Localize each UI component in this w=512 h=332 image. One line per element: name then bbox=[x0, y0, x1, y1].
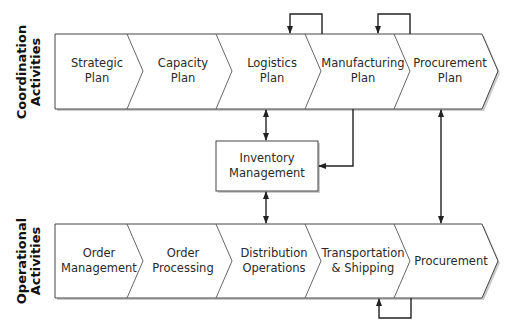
segment-label: Procurement bbox=[414, 254, 488, 268]
segment-label: Plan bbox=[351, 71, 375, 85]
segment-label: Plan bbox=[85, 71, 109, 85]
segment-procurement[interactable]: Procurement bbox=[414, 254, 488, 268]
coordination-row: Strategic Plan Capacity Plan Logistics P… bbox=[55, 34, 500, 111]
segment-label: Plan bbox=[171, 71, 195, 85]
segment-label: Distribution bbox=[240, 246, 307, 260]
inventory-label-line1: Inventory bbox=[240, 151, 295, 165]
directed-arrow bbox=[319, 109, 353, 166]
segment-label: Transportation bbox=[320, 246, 404, 260]
segment-label: Order bbox=[83, 246, 116, 260]
operational-row: Order Management Order Processing Distri… bbox=[55, 224, 500, 300]
segment-label: Processing bbox=[152, 261, 213, 275]
segment-label: Strategic bbox=[71, 56, 123, 70]
inventory-label-line2: Management bbox=[229, 166, 305, 180]
segment-transportation-shipping[interactable]: Transportation & Shipping bbox=[320, 246, 404, 275]
coordination-row-label: Coordination Activities bbox=[14, 25, 43, 119]
feedback-loop-arrow bbox=[290, 14, 322, 34]
coordination-label-line2: Activities bbox=[28, 37, 43, 106]
operational-row-label: Operational Activities bbox=[14, 218, 43, 304]
segment-label: Procurement bbox=[413, 56, 487, 70]
segment-label: & Shipping bbox=[332, 261, 395, 275]
feedback-loop-arrow bbox=[378, 14, 410, 34]
supply-chain-diagram: Coordination Activities Operational Acti… bbox=[0, 0, 512, 332]
inventory-management-box[interactable]: Inventory Management bbox=[216, 141, 320, 193]
coordination-label-line1: Coordination bbox=[14, 25, 29, 119]
segment-label: Plan bbox=[260, 71, 284, 85]
segment-distribution-operations[interactable]: Distribution Operations bbox=[240, 246, 307, 275]
feedback-loop-arrow bbox=[379, 298, 411, 318]
segment-label: Manufacturing bbox=[321, 56, 404, 70]
operational-label-line1: Operational bbox=[14, 218, 29, 304]
operational-label-line2: Activities bbox=[28, 226, 43, 295]
segment-label: Management bbox=[61, 261, 137, 275]
segment-label: Logistics bbox=[247, 56, 297, 70]
segment-label: Capacity bbox=[158, 56, 208, 70]
segment-label: Operations bbox=[242, 261, 305, 275]
segment-label: Order bbox=[167, 246, 200, 260]
segment-label: Plan bbox=[438, 71, 462, 85]
